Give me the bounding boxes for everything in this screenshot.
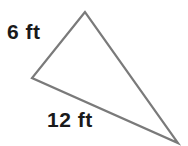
side-length-label-6ft: 6 ft	[7, 21, 41, 42]
side-length-label-12ft: 12 ft	[47, 109, 93, 130]
triangle-figure: 6 ft 12 ft	[0, 0, 188, 146]
